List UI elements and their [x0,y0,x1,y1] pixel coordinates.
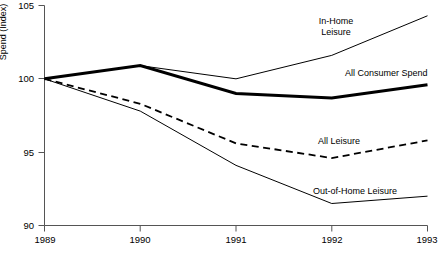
x-tick-label-1991: 1991 [211,234,261,245]
x-tick-label-1992: 1992 [307,234,357,245]
y-tick-label-95: 95 [6,147,34,158]
series-label-all-consumer-spend: All Consumer Spend [345,68,428,79]
series-line-out-of-home-leisure [45,79,428,204]
x-tick-label-1993: 1993 [402,234,442,245]
x-tick-label-1989: 1989 [20,234,70,245]
y-axis-title-text: Spend (Index) [0,4,8,61]
x-tick-label-1990: 1990 [115,234,165,245]
series-label-out-of-home-leisure: Out-of-Home Leisure [313,186,397,197]
y-tick-label-100: 100 [6,73,34,84]
series-label-in-home-leisure: In-Home Leisure [297,16,375,38]
series-line-all-leisure [45,79,428,158]
y-tick-label-105: 105 [6,0,34,11]
y-tick-label-90: 90 [6,220,34,231]
series-label-all-leisure: All Leisure [318,136,360,147]
